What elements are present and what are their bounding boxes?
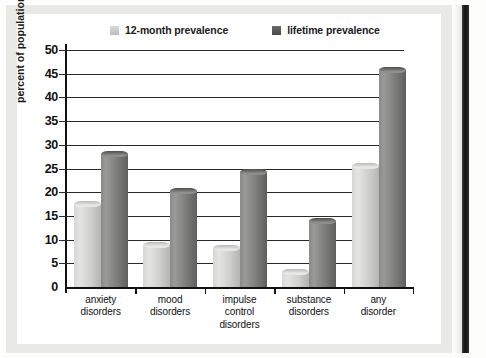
x-axis-category-labels: anxietydisordersmooddisordersimpulsecont… [66, 294, 413, 344]
bar-mood-disorders-12-month [143, 242, 170, 287]
y-tick-label-15: 15 [45, 209, 58, 223]
y-tick-label-0: 0 [51, 280, 58, 294]
bar-substance-disorders-lifetime [309, 218, 336, 287]
bar-any-disorder-lifetime [379, 67, 406, 287]
gridline-45 [66, 74, 404, 75]
y-axis-tick-labels: 05101520253035404550 [30, 50, 58, 287]
x-tick-1 [135, 287, 136, 294]
legend-item-lifetime: lifetime prevalence [272, 24, 380, 36]
bar-anxiety-disorders-12-month [74, 201, 101, 287]
y-tick-35 [59, 121, 66, 122]
x-tick-end [413, 287, 414, 294]
y-tick-label-40: 40 [45, 90, 58, 104]
y-tick-label-20: 20 [45, 185, 58, 199]
category-label-line: disorders [197, 319, 283, 331]
gridline-40 [66, 97, 404, 98]
y-tick-5 [59, 263, 66, 264]
category-label-line: disorder [335, 306, 421, 318]
legend-swatch-dark-icon [272, 26, 281, 35]
y-tick-label-10: 10 [45, 233, 58, 247]
plot-area [66, 50, 413, 287]
x-axis-line [65, 287, 414, 289]
category-label-line: any [335, 294, 421, 306]
bar-mood-disorders-lifetime [170, 188, 197, 287]
chart-legend: 12-month prevalence lifetime prevalence [110, 22, 410, 38]
legend-label-lifetime: lifetime prevalence [287, 24, 380, 36]
legend-item-12-month: 12-month prevalence [110, 24, 228, 36]
bar-impulse-control-disorders-lifetime [240, 169, 267, 287]
y-tick-50 [59, 50, 66, 51]
y-tick-label-30: 30 [45, 138, 58, 152]
x-tick-3 [274, 287, 275, 294]
y-tick-label-50: 50 [45, 43, 58, 57]
y-tick-label-45: 45 [45, 67, 58, 81]
page-edge-shadow [454, 5, 462, 353]
bar-substance-disorders-12-month [282, 269, 309, 287]
category-label-any-disorder: anydisorder [335, 294, 421, 319]
y-tick-10 [59, 240, 66, 241]
y-tick-25 [59, 169, 66, 170]
legend-label-12-month: 12-month prevalence [125, 24, 228, 36]
y-tick-30 [59, 145, 66, 146]
book-page-edge [462, 5, 469, 353]
y-tick-20 [59, 192, 66, 193]
y-tick-label-35: 35 [45, 114, 58, 128]
gridline-50 [66, 50, 404, 51]
y-tick-label-25: 25 [45, 162, 58, 176]
legend-swatch-light-icon [110, 26, 119, 35]
gridline-35 [66, 121, 404, 122]
bar-anxiety-disorders-lifetime [101, 151, 128, 288]
x-tick-2 [205, 287, 206, 294]
bar-impulse-control-disorders-12-month [213, 245, 240, 287]
y-tick-15 [59, 216, 66, 217]
y-tick-40 [59, 97, 66, 98]
y-tick-label-5: 5 [51, 256, 58, 270]
y-axis-title: percent of population [14, 0, 26, 103]
x-tick-4 [344, 287, 345, 294]
y-tick-45 [59, 74, 66, 75]
scanned-page: 12-month prevalence lifetime prevalence … [0, 0, 486, 358]
gridline-30 [66, 145, 404, 146]
bar-any-disorder-12-month [352, 163, 379, 287]
